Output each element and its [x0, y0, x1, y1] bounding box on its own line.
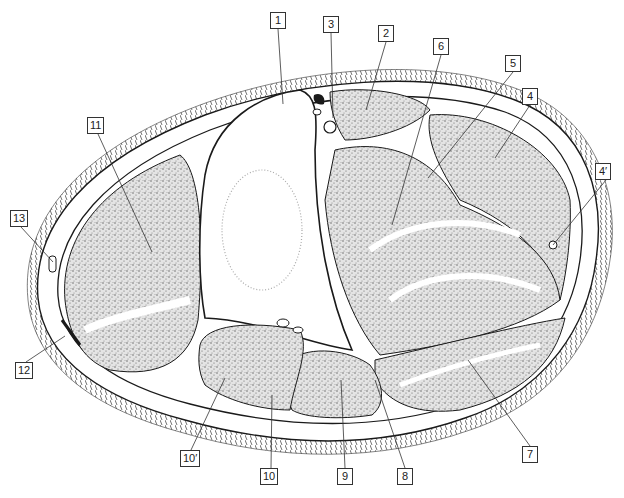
- callout-label-4p: 4′: [595, 163, 611, 180]
- callout-label-9: 9: [337, 468, 353, 485]
- callout-label-10: 10: [260, 468, 278, 485]
- callout-label-5: 5: [505, 55, 521, 72]
- callout-label-4: 4: [522, 88, 538, 105]
- callout-label-11: 11: [87, 117, 104, 134]
- callout-label-7: 7: [522, 446, 538, 463]
- callout-label-12: 12: [15, 362, 33, 379]
- callout-label-13: 13: [10, 210, 28, 227]
- cross-section-diagram: [0, 0, 624, 498]
- callout-label-8: 8: [397, 468, 413, 485]
- callout-label-6: 6: [433, 38, 449, 55]
- callout-label-1: 1: [270, 12, 286, 29]
- callout-label-3: 3: [323, 16, 339, 33]
- vessel-3: [324, 121, 336, 133]
- callout-label-10p: 10′: [180, 450, 200, 467]
- callout-label-2: 2: [378, 25, 394, 42]
